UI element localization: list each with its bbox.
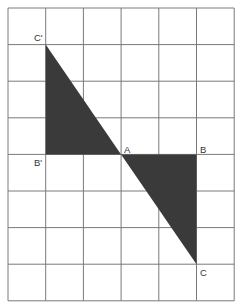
label-b-prime: B' <box>34 157 42 168</box>
rotation-diagram: C' B' A B C <box>0 0 236 305</box>
label-c: C <box>200 267 207 278</box>
label-b: B <box>200 144 206 155</box>
label-c-prime: C' <box>34 32 43 43</box>
label-a: A <box>124 144 131 155</box>
